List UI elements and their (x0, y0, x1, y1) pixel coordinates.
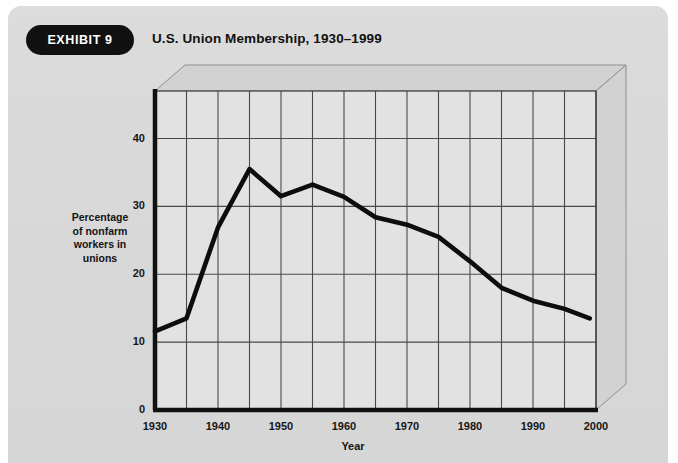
x-axis-tick-label: 1940 (194, 420, 242, 432)
y-axis-label-line-2: of nonfarm (56, 225, 144, 239)
y-axis-label-line-4: unions (56, 252, 144, 266)
y-axis-tick-label: 10 (111, 335, 145, 347)
y-axis-label-line-1: Percentage (56, 211, 144, 225)
x-axis-tick-label: 1930 (131, 420, 179, 432)
plot-side-face (596, 65, 626, 410)
y-axis-label: Percentage of nonfarm workers in unions (56, 211, 144, 265)
x-axis-tick-label: 1990 (509, 420, 557, 432)
x-axis-tick-label: 2000 (572, 420, 620, 432)
y-axis-label-line-3: workers in (56, 238, 144, 252)
y-axis-tick-label: 30 (111, 199, 145, 211)
y-axis-tick-label: 20 (111, 267, 145, 279)
x-axis-tick-label: 1980 (446, 420, 494, 432)
y-axis-tick-label: 0 (111, 403, 145, 415)
y-axis-tick-label: 40 (111, 132, 145, 144)
exhibit-card: EXHIBIT 9 U.S. Union Membership, 1930–19… (8, 6, 668, 463)
x-axis-label: Year (308, 440, 398, 452)
plot-top-face (155, 65, 626, 91)
x-axis-tick-label: 1960 (320, 420, 368, 432)
x-axis-tick-label: 1970 (383, 420, 431, 432)
x-axis-tick-label: 1950 (257, 420, 305, 432)
